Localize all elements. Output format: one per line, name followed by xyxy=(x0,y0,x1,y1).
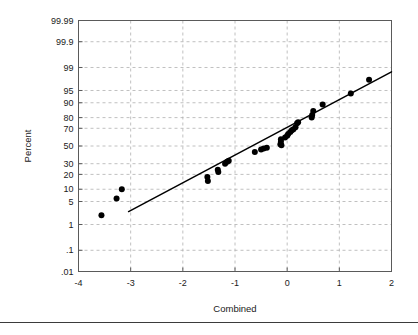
y-tick-label: 90 xyxy=(63,98,73,108)
y-axis-ticks xyxy=(79,21,83,272)
probability-plot-figure: -4-3-2-1012 99.9999.99995908070503020105… xyxy=(0,0,418,335)
y-tick-label: 30 xyxy=(63,159,73,169)
data-point xyxy=(252,149,258,155)
data-point xyxy=(264,145,270,151)
y-tick-label: .1 xyxy=(66,245,74,255)
y-tick-label: 20 xyxy=(63,170,73,180)
y-tick-label: 5 xyxy=(68,197,73,207)
y-tick-label: 99.9 xyxy=(56,37,74,47)
x-tick-label: -4 xyxy=(74,278,82,288)
data-point xyxy=(215,169,221,175)
y-tick-label: 50 xyxy=(63,141,73,151)
data-point xyxy=(226,158,232,164)
y-axis-tick-labels: 99.9999.999959080705030201051.1.01 xyxy=(51,16,74,277)
x-tick-label: -2 xyxy=(179,278,187,288)
data-point xyxy=(348,91,354,97)
data-point xyxy=(310,108,316,114)
x-axis-ticks xyxy=(79,268,392,272)
y-tick-label: 95 xyxy=(63,86,73,96)
gridlines xyxy=(79,21,392,272)
y-tick-label: 80 xyxy=(63,113,73,123)
x-axis-title: Combined xyxy=(213,303,256,314)
data-point xyxy=(205,178,211,184)
x-tick-label: -1 xyxy=(231,278,239,288)
data-point xyxy=(366,77,372,83)
footer-divider xyxy=(0,322,418,323)
data-point xyxy=(119,186,125,192)
y-tick-label: 99 xyxy=(63,63,73,73)
y-tick-label: .01 xyxy=(61,267,74,277)
y-tick-label: 70 xyxy=(63,124,73,134)
data-point xyxy=(295,119,301,125)
data-point xyxy=(278,142,284,148)
data-point xyxy=(320,102,326,108)
data-point xyxy=(114,195,120,201)
x-tick-label: 0 xyxy=(285,278,290,288)
y-axis-title: Percent xyxy=(22,129,33,162)
y-tick-label: 1 xyxy=(68,220,73,230)
x-axis-tick-labels: -4-3-2-1012 xyxy=(74,278,394,288)
data-point xyxy=(98,212,104,218)
y-tick-label: 99.99 xyxy=(51,16,74,26)
x-tick-label: 1 xyxy=(337,278,342,288)
x-tick-label: 2 xyxy=(389,278,394,288)
normal-probability-plot: -4-3-2-1012 99.9999.99995908070503020105… xyxy=(0,0,418,335)
y-tick-label: 10 xyxy=(63,184,73,194)
x-tick-label: -3 xyxy=(127,278,135,288)
